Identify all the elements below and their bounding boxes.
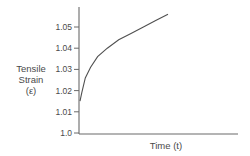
y-axis-title-line-1: Tensile	[16, 63, 46, 74]
y-axis-title-line-3: (ε)	[26, 85, 37, 96]
y-tick-label: 1.05	[55, 22, 72, 32]
y-tick-label: 1.04	[55, 43, 72, 53]
y-axis-title-line-2: Strain	[19, 74, 44, 85]
strain-time-chart: 1.01.011.021.031.041.05 Time (t) Tensile…	[0, 0, 250, 156]
chart-canvas: 1.01.011.021.031.041.05 Time (t) Tensile…	[0, 0, 250, 156]
y-tick-label: 1.01	[55, 107, 72, 117]
y-ticks: 1.01.011.021.031.041.05	[55, 22, 79, 138]
y-axis: 1.01.011.021.031.041.05	[55, 7, 79, 138]
y-tick-label: 1.02	[55, 86, 72, 96]
y-axis-title: Tensile Strain (ε)	[16, 63, 46, 96]
y-tick-label: 1.03	[55, 64, 72, 74]
x-axis: Time (t)	[79, 134, 238, 151]
y-tick-label: 1.0	[60, 128, 72, 138]
strain-curve	[80, 14, 168, 101]
x-axis-title: Time (t)	[150, 140, 182, 151]
